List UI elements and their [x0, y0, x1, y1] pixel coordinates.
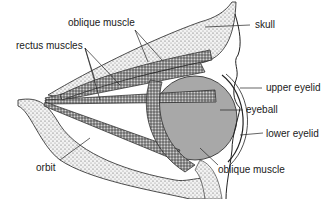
label-oblique-muscle-bottom: oblique muscle	[218, 165, 285, 175]
label-orbit: orbit	[36, 163, 55, 173]
label-skull: skull	[255, 20, 275, 30]
label-oblique-muscle-top: oblique muscle	[68, 18, 135, 28]
label-lower-eyelid: lower eyelid	[266, 129, 319, 139]
label-eyeball: eyeball	[246, 105, 278, 115]
label-upper-eyelid: upper eyelid	[266, 83, 320, 93]
eye-anatomy-diagram: oblique muscle skull rectus muscles uppe…	[0, 0, 336, 199]
label-rectus-muscles: rectus muscles	[16, 41, 83, 51]
